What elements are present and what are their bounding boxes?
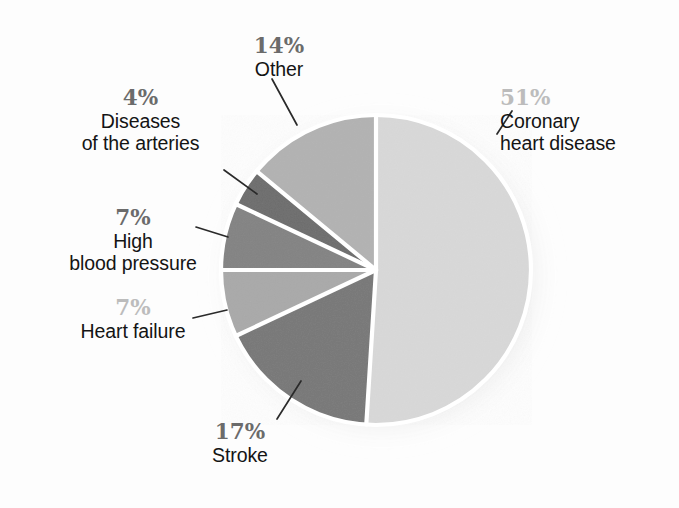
slice-name-other: Other [219,58,339,80]
slice-percent-high-blood-pressure: 7% [20,206,246,230]
slice-label-high-blood-pressure: 7% High blood pressure [20,206,246,274]
slice-label-stroke: 17% Stroke [180,420,300,466]
slice-name-diseases-of-the-arteries-line2: of the arteries [38,132,243,154]
slice-name-diseases-of-the-arteries-line1: Diseases [38,110,243,132]
slice-label-other: 14% Other [219,34,339,80]
slice-label-coronary-heart-disease: 51% Coronary heart disease [500,86,675,154]
slice-name-heart-failure: Heart failure [20,320,246,342]
slice-percent-stroke: 17% [180,420,300,444]
pie-chart-figure: 14% Other 4% Diseases of the arteries 7%… [0,0,679,508]
leader-line-other [272,79,297,125]
slice-name-high-blood-pressure-line1: High [20,230,246,252]
slice-label-diseases-of-the-arteries: 4% Diseases of the arteries [38,86,243,154]
slice-name-coronary-heart-disease-line1: Coronary [500,110,675,132]
slice-percent-diseases-of-the-arteries: 4% [38,86,243,110]
slice-name-stroke: Stroke [180,444,300,466]
slice-name-coronary-heart-disease-line2: heart disease [500,132,675,154]
slice-percent-other: 14% [219,34,339,58]
slice-percent-heart-failure: 7% [20,296,246,320]
slice-name-high-blood-pressure-line2: blood pressure [20,252,246,274]
slice-label-heart-failure: 7% Heart failure [20,296,246,342]
slice-percent-coronary-heart-disease: 51% [500,86,675,110]
